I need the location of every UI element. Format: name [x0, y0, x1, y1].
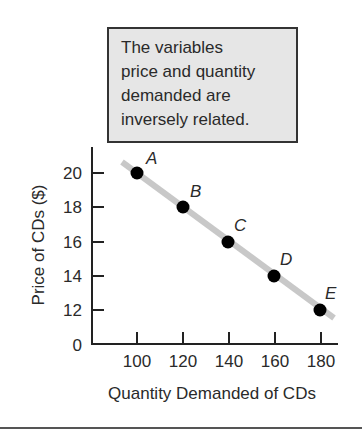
- point-label: D: [280, 250, 292, 269]
- point-e: [314, 304, 327, 317]
- point-labels: A B C D E: [145, 149, 337, 303]
- x-tick-label: 120: [169, 352, 197, 371]
- y-tick-label: 14: [63, 267, 82, 286]
- point-label: A: [145, 149, 157, 168]
- y-tick-label: 0: [73, 336, 82, 355]
- demand-chart: 20 18 16 14 12 0 100 120 140 160 180 Qua…: [0, 0, 364, 431]
- x-ticks: [137, 332, 321, 344]
- y-tick-label: 16: [63, 233, 82, 252]
- x-axis-title: Quantity Demanded of CDs: [108, 384, 316, 403]
- y-axis-title: Price of CDs ($): [29, 185, 48, 306]
- y-tick-label: 12: [63, 301, 82, 320]
- point-a: [131, 167, 144, 180]
- y-ticks: [92, 173, 104, 310]
- x-tick-label: 180: [307, 352, 335, 371]
- bottom-divider: [0, 427, 362, 429]
- x-tick-labels: 100 120 140 160 180: [123, 352, 335, 371]
- x-tick-label: 100: [123, 352, 151, 371]
- x-tick-label: 140: [215, 352, 243, 371]
- point-b: [177, 201, 190, 214]
- point-label: E: [325, 284, 337, 303]
- y-tick-labels: 20 18 16 14 12 0: [63, 164, 82, 355]
- point-c: [222, 236, 235, 249]
- x-tick-label: 160: [261, 352, 289, 371]
- point-label: B: [190, 182, 201, 201]
- point-label: C: [234, 216, 247, 235]
- point-d: [268, 270, 281, 283]
- y-tick-label: 20: [63, 164, 82, 183]
- y-tick-label: 18: [63, 198, 82, 217]
